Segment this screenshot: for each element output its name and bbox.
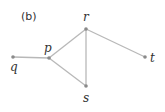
figure-label: (b) xyxy=(21,10,37,23)
node-s xyxy=(84,84,88,88)
node-label-t: t xyxy=(150,51,155,65)
edge-p-r xyxy=(49,29,86,58)
node-label-q: q xyxy=(10,60,18,74)
node-r xyxy=(84,27,88,31)
edge-p-s xyxy=(49,58,86,86)
edges xyxy=(13,29,145,86)
node-label-r: r xyxy=(83,10,90,24)
node-q xyxy=(11,55,15,59)
node-p xyxy=(47,56,51,60)
node-label-p: p xyxy=(44,41,52,55)
edge-q-p xyxy=(13,57,49,58)
node-t xyxy=(143,55,147,59)
edge-r-t xyxy=(86,29,145,57)
graph-diagram: (b) q p r s t xyxy=(0,0,165,112)
node-label-s: s xyxy=(83,91,89,105)
